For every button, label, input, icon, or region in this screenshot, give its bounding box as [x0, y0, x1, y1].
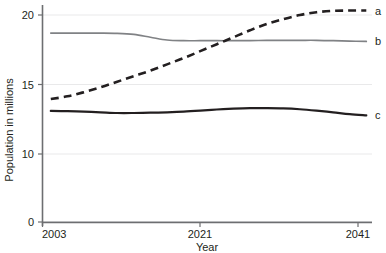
y-tick-labels: 20 15 10 0	[22, 9, 34, 228]
x-tick-label-2003: 2003	[42, 228, 66, 240]
series-line-b	[51, 33, 367, 41]
data-series-group	[51, 11, 367, 116]
x-tick-labels: 2003 2021 2041	[42, 228, 370, 240]
x-tick-label-2021: 2021	[188, 228, 212, 240]
y-tick-label-20: 20	[22, 9, 34, 21]
y-tick-label-0: 0	[28, 216, 34, 228]
y-axis-title: Population in millions	[3, 78, 15, 182]
x-axis-title: Year	[196, 241, 219, 253]
x-tick-label-2041: 2041	[346, 228, 370, 240]
series-label-c: c	[375, 109, 381, 121]
y-tick-label-10: 10	[22, 148, 34, 160]
series-line-c	[51, 108, 367, 115]
y-tick-label-15: 15	[22, 79, 34, 91]
axes	[38, 5, 372, 227]
series-label-b: b	[375, 35, 381, 47]
gridlines	[42, 15, 372, 222]
series-line-a	[51, 11, 367, 100]
chart-canvas: 20 15 10 0 2003 2021 2041 Year Populatio…	[0, 0, 386, 253]
line-chart: 20 15 10 0 2003 2021 2041 Year Populatio…	[0, 0, 386, 253]
series-labels: a b c	[375, 5, 382, 121]
series-label-a: a	[375, 5, 382, 17]
